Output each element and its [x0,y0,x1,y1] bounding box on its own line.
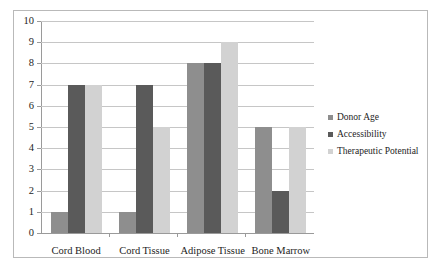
x-axis-tick-mark [177,233,178,237]
plot-area: 109876543210 [41,21,314,233]
bar [204,63,221,233]
y-axis-tick-label: 0 [29,228,34,239]
bar [136,85,153,233]
bar [85,85,102,233]
y-axis-tick-mark [37,63,41,64]
legend-item-label: Donor Age [337,113,379,123]
bar-groups [42,21,314,233]
x-axis-category-label: Cord Tissue [110,245,178,256]
y-axis-tick-label: 1 [29,207,34,218]
bar-group [178,21,246,233]
bar [119,212,136,233]
bar [187,63,204,233]
bar [289,127,306,233]
x-axis-category-label: Adipose Tissue [179,245,247,256]
bar [153,127,170,233]
legend-swatch-icon [328,149,333,154]
y-axis-tick-label: 8 [29,58,34,69]
legend-item[interactable]: Donor Age [328,110,427,125]
y-axis-tick-label: 3 [29,164,34,175]
y-axis-tick-mark [37,127,41,128]
y-axis-tick-mark [37,169,41,170]
bar [68,85,85,233]
x-axis-category-label: Cord Blood [42,245,110,256]
chart-frame: 109876543210 Cord BloodCord TissueAdipos… [13,10,428,258]
x-axis-tick-mark [245,233,246,237]
bar-group [110,21,178,233]
bar [255,127,272,233]
legend-item-label: Accessibility [337,130,387,140]
y-axis-tick-label: 5 [29,122,34,133]
y-axis-tick-mark [37,21,41,22]
bar-group [246,21,314,233]
y-axis-tick-label: 2 [29,185,34,196]
y-axis-tick-mark [37,212,41,213]
y-axis-tick-mark [37,85,41,86]
y-axis-tick-mark [37,191,41,192]
y-axis-tick-label: 10 [24,16,35,27]
legend-item-label: Therapeutic Potential [337,147,419,157]
y-axis-tick-label: 9 [29,37,34,48]
legend-swatch-icon [328,132,333,137]
x-axis-tick-mark [109,233,110,237]
bar [272,191,289,233]
bar [51,212,68,233]
y-axis-tick-label: 4 [29,143,34,154]
y-axis-tick-label: 7 [29,79,34,90]
legend-item[interactable]: Therapeutic Potential [328,144,427,159]
y-axis-tick-mark [37,106,41,107]
legend-item[interactable]: Accessibility [328,127,427,142]
x-axis-category-label: Bone Marrow [247,245,315,256]
y-axis-tick-mark [37,148,41,149]
y-axis-tick-label: 6 [29,101,34,112]
chart-legend: Donor AgeAccessibilityTherapeutic Potent… [328,110,427,161]
bar [221,42,238,233]
bar-group [42,21,110,233]
y-axis-tick-mark [37,42,41,43]
y-axis-tick-mark [37,233,41,234]
legend-swatch-icon [328,115,333,120]
x-axis-labels: Cord BloodCord TissueAdipose TissueBone … [42,245,315,256]
